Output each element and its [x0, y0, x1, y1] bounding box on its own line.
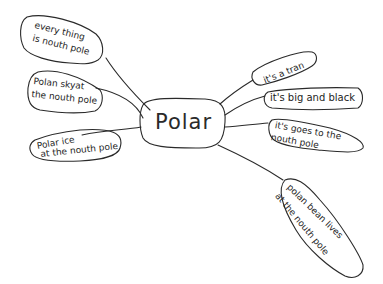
connector-polan-sky — [96, 88, 143, 118]
node-big-black-line1: it's big and black — [270, 92, 355, 103]
center-node-label: Polar — [155, 110, 212, 134]
connector-big-black — [225, 96, 265, 115]
connector-tran — [220, 80, 253, 104]
connector-goes — [225, 123, 268, 127]
connector-everything — [106, 58, 150, 110]
connector-polar-ice — [82, 127, 141, 135]
connector-bean — [218, 145, 283, 180]
